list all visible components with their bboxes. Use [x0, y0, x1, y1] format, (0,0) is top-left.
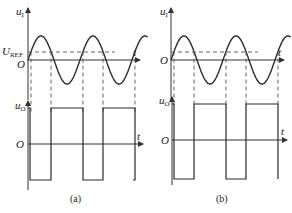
panel-b: uI O t uO O t (b) — [159, 5, 291, 205]
input-axis-label-b: uI — [160, 5, 169, 19]
panel-a: uI UREF O t uO O t (a) — [2, 5, 148, 205]
output-origin-label-a: O — [16, 138, 24, 150]
input-axis-label-a: uI — [16, 5, 25, 19]
output-time-label-b: t — [281, 125, 285, 137]
comparator-waveform-diagram: uI UREF O t uO O t (a) uI O t uO O t (b) — [0, 0, 292, 213]
origin-label-a: O — [17, 58, 25, 70]
caption-b: (b) — [216, 193, 228, 205]
ref-voltage-label-a: UREF — [2, 45, 23, 59]
origin-label-b: O — [160, 54, 168, 66]
transition-guides-a — [31, 52, 135, 112]
output-time-label-a: t — [137, 130, 141, 142]
time-label-b: t — [278, 46, 282, 58]
output-origin-label-b: O — [161, 134, 169, 146]
caption-a: (a) — [70, 193, 81, 205]
output-axis-label-b: uO — [159, 94, 170, 108]
output-square-wave-b — [172, 104, 278, 179]
output-axis-label-a: uO — [15, 99, 26, 113]
